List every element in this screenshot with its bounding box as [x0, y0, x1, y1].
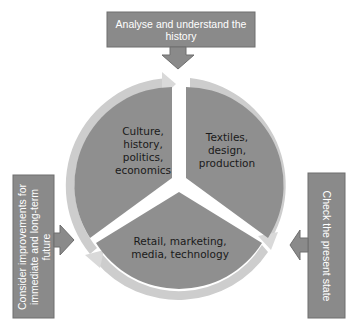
- step-label-left: Consider improvements for immediate and …: [15, 176, 53, 319]
- arrow-down-icon: [162, 47, 194, 69]
- cycle-diagram: [0, 0, 358, 332]
- segment-label-top-left: Culture, history, politics, economics: [112, 125, 174, 177]
- arrow-right-icon: [54, 225, 74, 255]
- step-label-right: Check the present state: [317, 174, 337, 319]
- segment-label-bottom: Retail, marketing, media, technology: [120, 235, 240, 261]
- segment-label-top-right: Textiles, design, production: [192, 131, 262, 170]
- step-label-top: Analyse and understand the history: [110, 13, 252, 46]
- arrow-left-icon: [290, 230, 308, 260]
